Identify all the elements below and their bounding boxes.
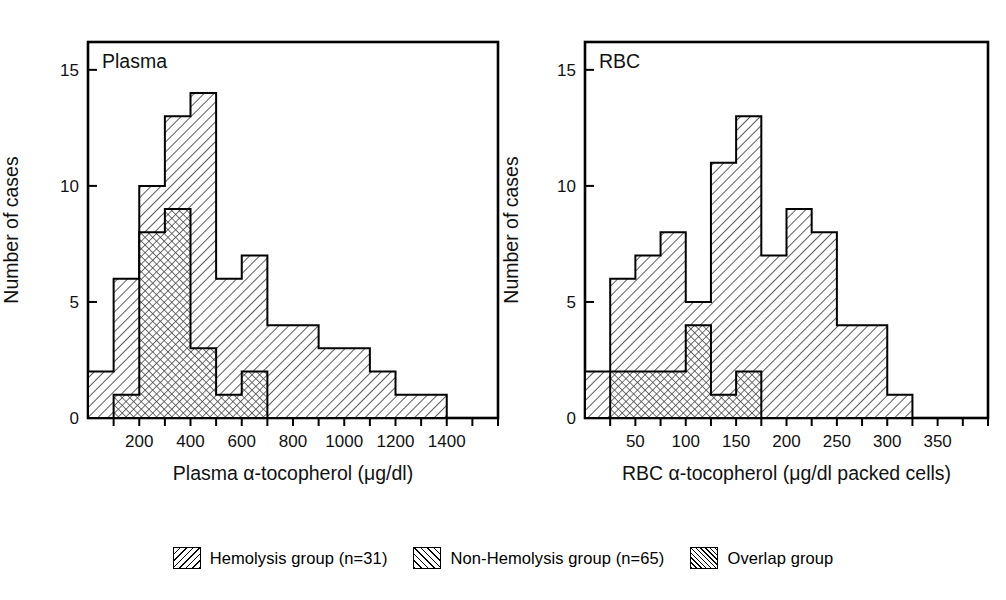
y-axis-title: Number of cases bbox=[0, 156, 22, 304]
chart-svg-rbc: RBC051015Number of cases5010015020025030… bbox=[500, 0, 1006, 530]
x-tick-label: 600 bbox=[228, 432, 256, 451]
x-tick-label: 1200 bbox=[377, 432, 415, 451]
x-tick-label: 400 bbox=[176, 432, 204, 451]
x-tick-label: 100 bbox=[672, 432, 700, 451]
y-tick-label: 5 bbox=[567, 293, 576, 312]
legend-swatch-overlap bbox=[690, 547, 718, 569]
y-tick-label: 0 bbox=[70, 409, 79, 428]
y-tick-label: 10 bbox=[60, 177, 79, 196]
x-tick-label: 200 bbox=[125, 432, 153, 451]
figure-root: Plasma051015Number of cases2004006008001… bbox=[0, 0, 1006, 600]
panel-label: RBC bbox=[599, 50, 640, 72]
legend-swatch-hemolysis bbox=[173, 547, 201, 569]
legend-item-hemolysis: Hemolysis group (n=31) bbox=[173, 547, 388, 569]
x-tick-label: 150 bbox=[722, 432, 750, 451]
x-tick-label: 1400 bbox=[428, 432, 466, 451]
y-tick-label: 5 bbox=[70, 293, 79, 312]
y-axis-title: Number of cases bbox=[500, 156, 522, 304]
x-axis-title: Plasma α-tocopherol (μg/dl) bbox=[173, 462, 413, 484]
legend-item-non-hemolysis: Non-Hemolysis group (n=65) bbox=[413, 547, 664, 569]
chart-svg-plasma: Plasma051015Number of cases2004006008001… bbox=[0, 0, 520, 530]
legend-label-hemolysis: Hemolysis group (n=31) bbox=[210, 549, 388, 568]
legend-swatch-non-hemolysis bbox=[413, 547, 441, 569]
legend-item-overlap: Overlap group bbox=[690, 547, 833, 569]
y-tick-label: 0 bbox=[567, 409, 576, 428]
y-tick-label: 15 bbox=[557, 61, 576, 80]
legend-label-overlap: Overlap group bbox=[727, 549, 833, 568]
x-tick-label: 800 bbox=[279, 432, 307, 451]
x-tick-label: 250 bbox=[823, 432, 851, 451]
figure-legend: Hemolysis group (n=31) Non-Hemolysis gro… bbox=[0, 528, 1006, 588]
x-tick-label: 350 bbox=[923, 432, 951, 451]
chart-panel-plasma: Plasma051015Number of cases2004006008001… bbox=[0, 0, 520, 530]
legend-label-non-hemolysis: Non-Hemolysis group (n=65) bbox=[450, 549, 664, 568]
x-axis-title: RBC α-tocopherol (μg/dl packed cells) bbox=[622, 462, 951, 484]
y-tick-label: 10 bbox=[557, 177, 576, 196]
x-tick-label: 1000 bbox=[325, 432, 363, 451]
x-tick-label: 50 bbox=[626, 432, 645, 451]
x-tick-label: 200 bbox=[772, 432, 800, 451]
chart-panel-rbc: RBC051015Number of cases5010015020025030… bbox=[500, 0, 1006, 530]
x-tick-label: 300 bbox=[873, 432, 901, 451]
panel-label: Plasma bbox=[102, 50, 167, 72]
y-tick-label: 15 bbox=[60, 61, 79, 80]
